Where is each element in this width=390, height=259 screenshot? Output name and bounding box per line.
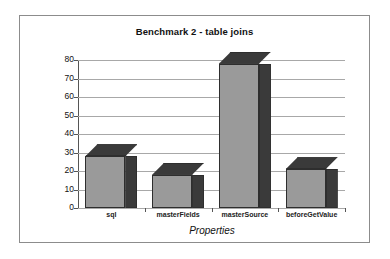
y-tick-mark [74, 208, 78, 209]
x-tick-label: masterFields [145, 211, 212, 218]
bar [219, 52, 271, 208]
y-tick-label: 60 [52, 92, 74, 101]
bar-side-face [192, 175, 204, 208]
bar-front-face [85, 156, 125, 208]
y-tick-label: 80 [52, 55, 74, 64]
bar [85, 144, 137, 208]
y-tick-label: 30 [52, 148, 74, 157]
bar-top-face [85, 144, 137, 156]
x-tick-label: sql [78, 211, 145, 218]
bar-side-face [125, 156, 137, 208]
bar-top-face [219, 52, 271, 64]
bar-top-face [152, 163, 204, 175]
bar-front-face [286, 169, 326, 208]
bar-front-face [152, 175, 192, 208]
bar-top-face [286, 157, 338, 169]
bar [152, 163, 204, 208]
y-axis-tick-labels: 01020304050607080 [50, 0, 74, 259]
y-tick-label: 0 [52, 203, 74, 212]
chart-figure: Benchmark 2 - table joins Seconds Proper… [0, 0, 390, 259]
x-tick-label: beforeGetValue [278, 211, 345, 218]
y-tick-label: 40 [52, 129, 74, 138]
y-tick-label: 50 [52, 111, 74, 120]
y-tick-label: 20 [52, 166, 74, 175]
x-tick-label: masterSource [212, 211, 279, 218]
y-tick-label: 10 [52, 185, 74, 194]
x-axis-title: Properties [78, 225, 346, 236]
y-tick-label: 70 [52, 74, 74, 83]
bar-front-face [219, 64, 259, 208]
bar [286, 157, 338, 208]
bar-side-face [259, 64, 271, 208]
plot-area [78, 60, 345, 208]
x-tick-mark [345, 208, 346, 212]
bar-side-face [326, 169, 338, 208]
